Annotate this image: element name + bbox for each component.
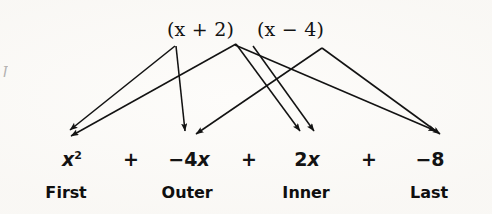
label-last-initial: L [410, 183, 420, 202]
label-last: Last [410, 183, 448, 202]
term-first-base: x [62, 148, 74, 170]
term-outer-variable: x [197, 148, 209, 170]
plus-operator-1: + [123, 148, 139, 170]
factor-right-text: (x − 4) [257, 18, 324, 40]
term-outer: −4x [168, 148, 209, 170]
label-outer: Outer [161, 183, 212, 202]
arrow-layer [0, 0, 492, 214]
term-first: x2 [62, 148, 82, 170]
factor-right: (x − 4) [257, 18, 324, 40]
term-last: −8 [415, 148, 444, 170]
label-outer-rest: uter [175, 183, 212, 202]
label-inner: Inner [282, 183, 329, 202]
factor-left: (x + 2) [167, 18, 234, 40]
label-outer-initial: O [161, 183, 175, 202]
term-inner-coefficient: 2 [294, 148, 307, 170]
foil-arrows [70, 44, 440, 136]
label-first: First [45, 183, 86, 202]
arrow-first-a [70, 46, 175, 130]
label-first-rest: irst [56, 183, 86, 202]
factor-left-text: (x + 2) [167, 18, 234, 40]
label-last-rest: ast [420, 183, 448, 202]
term-inner-variable: x [307, 148, 319, 170]
term-inner: 2x [294, 148, 320, 170]
term-outer-coefficient: −4 [168, 148, 197, 170]
arrow-outer-a [176, 46, 185, 131]
foil-method-figure: J (x + 2) (x − 4) x2 −4x 2x −8 + + + Fir… [0, 0, 492, 214]
term-first-exponent: 2 [74, 149, 82, 162]
label-inner-rest: nner [289, 183, 330, 202]
term-last-coefficient: −8 [415, 148, 444, 170]
arrow-outer-b [196, 48, 322, 134]
arrow-first-b [71, 44, 236, 136]
plus-operator-2: + [241, 148, 257, 170]
plus-operator-3: + [361, 148, 377, 170]
arrow-inner-a [236, 44, 300, 131]
label-first-initial: F [45, 183, 56, 202]
arrow-last-b [322, 48, 440, 134]
